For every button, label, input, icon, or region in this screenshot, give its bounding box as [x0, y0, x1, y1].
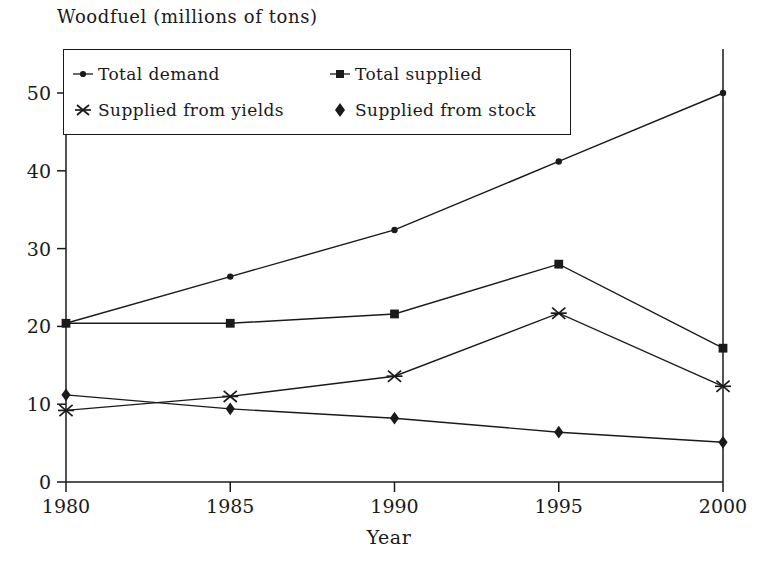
x-axis-title: Year	[366, 526, 412, 548]
data-point-marker	[62, 319, 71, 328]
legend-item-supplied-from-yields: Supplied from yields	[72, 101, 329, 119]
data-point-marker	[719, 344, 728, 353]
data-point-marker	[554, 260, 563, 269]
data-point-marker	[226, 319, 235, 328]
data-point-marker	[556, 158, 562, 164]
series-total-supplied	[62, 260, 728, 353]
legend-item-supplied-from-stock: Supplied from stock	[329, 101, 570, 119]
x-tick-label: 1985	[206, 495, 254, 517]
legend: Total demand Total supplied	[63, 49, 571, 135]
data-point-marker	[390, 412, 399, 425]
y-tick-label: 50	[27, 82, 51, 104]
data-point-marker	[720, 90, 726, 96]
legend-label-total-supplied: Total supplied	[355, 66, 482, 83]
square-marker-icon	[329, 65, 351, 83]
series-line	[66, 264, 723, 348]
tick-labels: 0102030405019801985199019952000	[27, 82, 747, 517]
legend-label-total-demand: Total demand	[98, 66, 220, 83]
y-tick-label: 30	[27, 238, 51, 260]
data-point-marker	[226, 402, 235, 415]
data-point-marker	[391, 227, 397, 233]
series-supplied-from-stock	[61, 388, 727, 448]
data-series	[58, 90, 731, 449]
data-point-marker	[227, 273, 233, 279]
data-point-marker	[390, 310, 399, 319]
y-tick-label: 10	[27, 393, 51, 415]
x-tick-label: 1995	[535, 495, 583, 517]
diamond-marker-icon	[329, 101, 351, 119]
y-tick-label: 20	[27, 315, 51, 337]
data-point-marker	[554, 426, 563, 439]
data-point-marker	[718, 436, 727, 449]
legend-item-total-supplied: Total supplied	[329, 65, 570, 83]
asterisk-marker-icon	[72, 101, 94, 119]
series-line	[66, 313, 723, 410]
data-point-marker	[61, 388, 70, 401]
dot-marker-icon	[72, 65, 94, 83]
y-tick-label: 0	[39, 471, 51, 493]
x-tick-label: 2000	[699, 495, 747, 517]
legend-label-supplied-from-stock: Supplied from stock	[355, 102, 536, 119]
woodfuel-line-chart: Woodfuel (millions of tons) 010203040501…	[0, 0, 758, 568]
legend-label-supplied-from-yields: Supplied from yields	[98, 102, 284, 119]
tick-marks	[57, 93, 723, 492]
x-tick-label: 1990	[370, 495, 418, 517]
y-tick-label: 40	[27, 160, 51, 182]
x-tick-label: 1980	[42, 495, 90, 517]
legend-item-total-demand: Total demand	[72, 65, 329, 83]
